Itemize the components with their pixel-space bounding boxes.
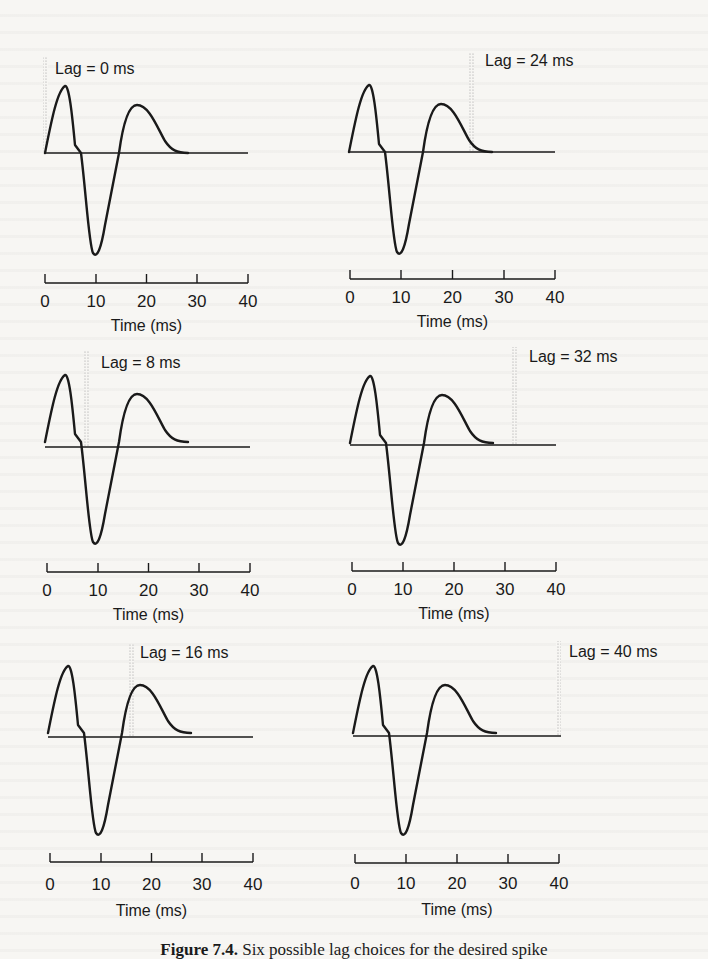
- tick-label: 20: [445, 580, 464, 599]
- tick-label: 20: [448, 874, 467, 893]
- time-axis: 0 10 20 30 40 Time (ms): [45, 853, 262, 919]
- tick-label: 10: [394, 580, 413, 599]
- lag-figure: 0 10 20 30 40 Time (ms) Lag = 0 ms 0 10 …: [0, 0, 708, 959]
- waveform-line: [45, 86, 188, 255]
- tick-label: 0: [345, 288, 354, 307]
- lag-marker: [469, 52, 474, 152]
- tick-label: 0: [42, 581, 51, 600]
- time-axis: 0 10 20 30 40 Time (ms): [350, 854, 568, 918]
- tick-label: 0: [40, 292, 49, 311]
- waveform-line: [350, 376, 493, 545]
- panel-lag-16: 0 10 20 30 40 Time (ms) Lag = 16 ms: [45, 644, 262, 919]
- waveform-line: [48, 666, 191, 835]
- panel-lag-40: 0 10 20 30 40 Time (ms) Lag = 40 ms: [350, 641, 657, 918]
- tick-label: 10: [392, 288, 411, 307]
- figure-caption-text: Six possible lag choices for the desired…: [242, 940, 547, 959]
- time-axis: 0 10 20 30 40 Time (ms): [40, 274, 257, 334]
- tick-label: 30: [496, 580, 515, 599]
- panel-lag-0: 0 10 20 30 40 Time (ms) Lag = 0 ms: [40, 57, 257, 334]
- tick-label: 20: [139, 581, 158, 600]
- lag-label: Lag = 24 ms: [485, 52, 574, 69]
- waveform-line: [353, 666, 496, 835]
- lag-label: Lag = 32 ms: [529, 348, 618, 365]
- tick-label: 0: [350, 874, 359, 893]
- x-axis-title: Time (ms): [111, 317, 182, 334]
- lag-label: Lag = 8 ms: [101, 354, 181, 371]
- tick-label: 10: [92, 875, 111, 894]
- tick-label: 40: [239, 292, 258, 311]
- figure-caption: Figure 7.4. Six possible lag choices for…: [0, 940, 708, 959]
- tick-label: 40: [547, 580, 566, 599]
- lag-label: Lag = 16 ms: [140, 644, 229, 661]
- tick-label: 30: [193, 875, 212, 894]
- x-axis-title: Time (ms): [116, 902, 187, 919]
- tick-label: 30: [495, 288, 514, 307]
- time-axis: 0 10 20 30 40 Time (ms): [42, 563, 259, 623]
- tick-label: 40: [546, 288, 565, 307]
- lag-marker: [556, 641, 561, 736]
- panel-lag-32: 0 10 20 30 40 Time (ms) Lag = 32 ms: [347, 347, 617, 622]
- lag-label: Lag = 0 ms: [55, 60, 135, 77]
- tick-label: 20: [142, 875, 161, 894]
- lag-marker: [512, 347, 517, 445]
- x-axis-title: Time (ms): [421, 901, 492, 918]
- time-axis: 0 10 20 30 40 Time (ms): [347, 562, 565, 622]
- x-axis-title: Time (ms): [417, 313, 488, 330]
- tick-label: 20: [443, 288, 462, 307]
- waveform-line: [45, 375, 188, 544]
- lag-label: Lag = 40 ms: [569, 643, 658, 660]
- tick-label: 20: [137, 292, 156, 311]
- tick-label: 10: [397, 874, 416, 893]
- tick-label: 0: [45, 875, 54, 894]
- tick-label: 40: [550, 874, 569, 893]
- tick-label: 40: [241, 581, 260, 600]
- figure-number: Figure 7.4.: [160, 940, 238, 959]
- tick-label: 10: [89, 581, 108, 600]
- tick-label: 40: [244, 875, 263, 894]
- x-axis-title: Time (ms): [418, 605, 489, 622]
- time-axis: 0 10 20 30 40 Time (ms): [345, 270, 564, 330]
- tick-label: 0: [347, 580, 356, 599]
- panel-lag-24: 0 10 20 30 40 Time (ms) Lag = 24 ms: [345, 52, 573, 330]
- tick-label: 30: [499, 874, 518, 893]
- tick-label: 10: [87, 292, 106, 311]
- panel-lag-8: 0 10 20 30 40 Time (ms) Lag = 8 ms: [42, 351, 259, 623]
- x-axis-title: Time (ms): [113, 606, 184, 623]
- tick-label: 30: [190, 581, 209, 600]
- lag-marker: [84, 351, 89, 447]
- tick-label: 30: [188, 292, 207, 311]
